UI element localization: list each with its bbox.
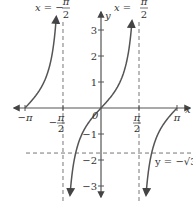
x-tick-label-num: π	[57, 112, 65, 123]
asymptote-right-den: 2	[141, 9, 147, 20]
asymptote-left-lhs: x = −	[35, 2, 64, 13]
x-tick-label: π	[173, 112, 181, 123]
x-tick-label-num: π	[133, 112, 141, 123]
asymptote-left-den: 2	[63, 9, 69, 20]
asymptote-left-label: x = − π 2	[35, 0, 70, 20]
y-tick-label: 1	[91, 77, 97, 88]
y-tick-label: 2	[91, 51, 97, 62]
origin-label: 0	[92, 110, 99, 121]
y-axis-label: y	[104, 10, 111, 21]
tan-branch-3	[146, 108, 177, 195]
y-tick-label: −3	[82, 181, 97, 192]
tangent-graph: −π−π2π2π321−1−2−3 x y 0 x = − π 2 x = π …	[0, 0, 193, 201]
x-tick-label: −π	[18, 112, 33, 123]
x-axis-label: x	[185, 104, 191, 115]
x-tick-label-den: 2	[58, 123, 64, 134]
tan-branch-1	[25, 17, 56, 108]
horizontal-line-label: y = −√3	[154, 156, 193, 167]
y-tick-label: −2	[82, 155, 97, 166]
y-tick-label: 3	[91, 25, 97, 36]
asymptote-right-lhs: x =	[114, 2, 131, 13]
x-tick-label-sign: −	[49, 117, 57, 128]
asymptote-right-num: π	[140, 0, 148, 7]
asymptote-right-label: x = π 2	[114, 0, 148, 20]
asymptote-left-num: π	[62, 0, 70, 7]
x-tick-label-den: 2	[134, 123, 140, 134]
